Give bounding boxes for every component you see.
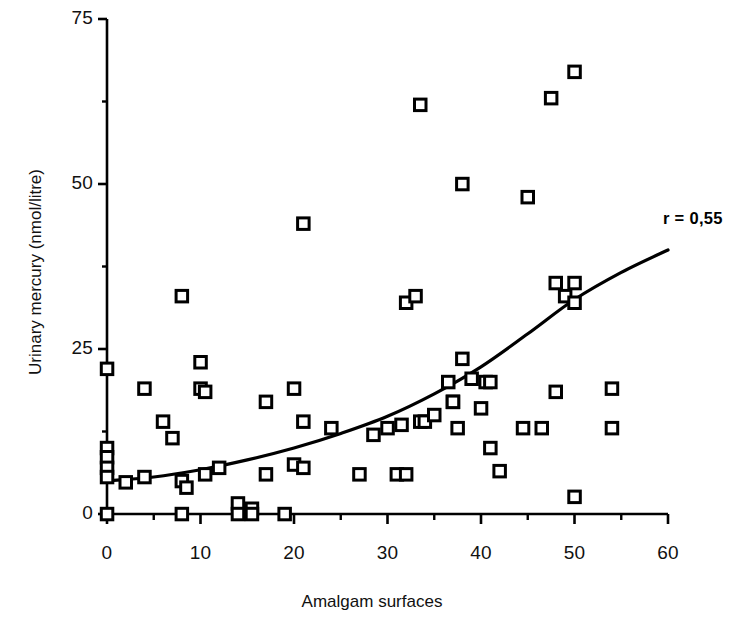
data-point-marker — [368, 429, 380, 441]
data-point-marker — [606, 383, 618, 395]
data-point-marker — [452, 422, 464, 434]
data-point-marker — [522, 191, 534, 203]
data-point-marker — [199, 386, 211, 398]
data-point-marker — [517, 422, 529, 434]
data-point-marker — [199, 469, 211, 481]
data-point-marker — [447, 396, 459, 408]
data-point-marker — [466, 373, 478, 385]
data-point-marker — [475, 403, 487, 415]
y-tick-label: 0 — [47, 502, 93, 524]
regression-curve — [107, 250, 668, 481]
data-point-marker — [396, 419, 408, 431]
data-point-marker — [550, 277, 562, 289]
data-point-marker — [139, 383, 151, 395]
regression-curve-path — [107, 250, 668, 481]
data-point-marker — [101, 471, 113, 483]
x-tick-label: 60 — [643, 542, 693, 564]
data-point-marker — [101, 363, 113, 375]
axes — [98, 19, 668, 524]
data-point-marker — [569, 66, 581, 78]
data-point-marker — [457, 178, 469, 190]
data-point-marker — [260, 469, 272, 481]
x-tick-label: 40 — [456, 542, 506, 564]
data-point-marker — [354, 469, 366, 481]
data-point-marker — [485, 376, 497, 388]
data-point-marker — [606, 422, 618, 434]
data-point-marker — [485, 442, 497, 454]
x-tick-label: 20 — [269, 542, 319, 564]
data-point-marker — [569, 297, 581, 309]
data-point-marker — [298, 462, 310, 474]
data-point-marker — [167, 432, 179, 444]
data-point-marker — [195, 357, 207, 369]
x-axis-title: Amalgam surfaces — [0, 592, 744, 612]
data-point-marker — [415, 99, 427, 111]
data-point-marker — [457, 353, 469, 365]
data-point-marker — [232, 508, 244, 520]
data-point-marker — [181, 482, 193, 494]
data-points — [101, 66, 617, 520]
data-point-marker — [298, 416, 310, 428]
data-point-marker — [176, 290, 188, 302]
y-tick-label: 75 — [47, 7, 93, 29]
data-point-marker — [120, 477, 132, 489]
x-tick-label: 50 — [550, 542, 600, 564]
data-point-marker — [139, 471, 151, 483]
data-point-marker — [536, 422, 548, 434]
data-point-marker — [326, 422, 338, 434]
data-point-marker — [279, 508, 291, 520]
data-point-marker — [101, 508, 113, 520]
data-point-marker — [545, 92, 557, 104]
plot-canvas — [0, 0, 744, 620]
x-tick-label: 10 — [176, 542, 226, 564]
data-point-marker — [213, 462, 225, 474]
x-tick-label: 30 — [363, 542, 413, 564]
y-axis-title: Urinary mercury (nmol/litre) — [26, 142, 46, 402]
data-point-marker — [410, 290, 422, 302]
y-tick-label: 25 — [47, 337, 93, 359]
data-point-marker — [400, 469, 412, 481]
x-tick-label: 0 — [82, 542, 132, 564]
data-point-marker — [246, 508, 258, 520]
data-point-marker — [288, 383, 300, 395]
data-point-marker — [569, 491, 581, 503]
data-point-marker — [382, 422, 394, 434]
y-tick-label: 50 — [47, 172, 93, 194]
data-point-marker — [550, 386, 562, 398]
data-point-marker — [443, 376, 455, 388]
data-point-marker — [176, 508, 188, 520]
data-point-marker — [429, 409, 441, 421]
data-point-marker — [494, 465, 506, 477]
data-point-marker — [157, 416, 169, 428]
scatter-plot-figure: 02550750102030405060 Urinary mercury (nm… — [0, 0, 744, 620]
data-point-marker — [298, 218, 310, 230]
data-point-marker — [260, 396, 272, 408]
correlation-annotation: r = 0,55 — [663, 209, 723, 228]
data-point-marker — [569, 277, 581, 289]
